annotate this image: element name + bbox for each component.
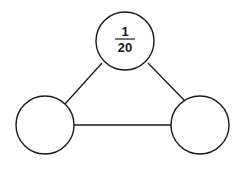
edge-top-left — [65, 63, 102, 104]
fraction-denominator: 20 — [118, 40, 132, 55]
node-right — [171, 96, 229, 154]
fraction-numerator: 1 — [121, 24, 128, 39]
node-left — [16, 96, 74, 154]
edge-top-right — [148, 63, 184, 100]
triangle-diagram: 1 20 — [0, 0, 237, 183]
